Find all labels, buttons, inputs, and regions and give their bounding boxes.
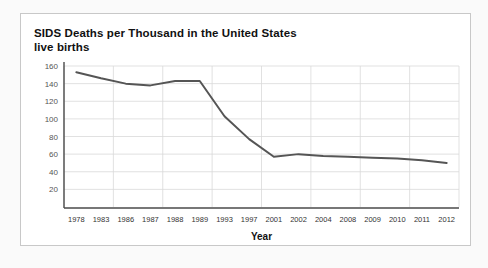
- chart-card: SIDS Deaths per Thousand in the United S…: [20, 13, 471, 246]
- x-axis-tick-label: 2009: [364, 215, 381, 224]
- x-axis-tick-label: 1986: [117, 215, 134, 224]
- plot-area: 20406080100120140160 1978198319861987198…: [21, 14, 472, 247]
- y-axis-tick-label: 20: [49, 185, 58, 194]
- y-axis-tick-label: 160: [45, 62, 59, 71]
- y-axis-tick-label: 60: [49, 150, 58, 159]
- y-axis-tick-label: 140: [45, 80, 59, 89]
- y-axis-tick-label: 80: [49, 133, 58, 142]
- x-axis-tick-label: 1987: [142, 215, 159, 224]
- gridlines-group: [64, 66, 459, 207]
- y-axis-tick-label: 40: [49, 168, 58, 177]
- x-axis-tick-label: 2011: [414, 215, 430, 224]
- x-axis-tick-labels: 1978198319861987198819891993199720012002…: [68, 215, 455, 224]
- x-axis-tick-label: 2004: [315, 215, 332, 224]
- line-chart-svg: 20406080100120140160 1978198319861987198…: [21, 14, 472, 247]
- x-axis-tick-label: 2002: [290, 215, 307, 224]
- x-axis-tick-label: 1983: [93, 215, 110, 224]
- x-axis-tick-label: 2012: [438, 215, 455, 224]
- x-axis-title: Year: [251, 231, 272, 242]
- x-axis-tick-label: 2001: [266, 215, 283, 224]
- y-axis-tick-labels: 20406080100120140160: [45, 62, 59, 194]
- x-axis-tick-label: 2008: [340, 215, 357, 224]
- x-axis-tick-label: 1989: [191, 215, 208, 224]
- x-axis-tick-label: 2010: [389, 215, 406, 224]
- x-axis-tick-label: 1993: [216, 215, 233, 224]
- x-axis-tick-label: 1997: [241, 215, 258, 224]
- x-axis-tick-label: 1988: [167, 215, 184, 224]
- y-axis-tick-label: 120: [45, 97, 59, 106]
- y-axis-tick-label: 100: [45, 115, 59, 124]
- x-axis-tick-label: 1978: [68, 215, 85, 224]
